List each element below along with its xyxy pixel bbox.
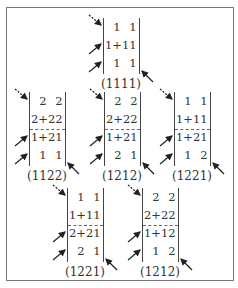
up-right-arrow-icon [15,154,27,164]
up-left-arrow-icon [142,71,153,82]
arrows-layer [0,0,238,288]
up-left-arrow-icon [68,163,79,174]
dashed-arrow-icon [89,15,101,25]
up-left-arrow-icon [213,163,224,174]
up-right-arrow-icon [15,136,27,146]
up-right-arrow-icon [53,250,65,260]
dashed-arrow-icon [53,185,65,195]
dashed-arrow-icon [160,89,172,99]
dashed-arrow-icon [90,89,102,99]
up-left-arrow-icon [106,259,117,270]
dashed-arrow-icon [15,89,27,99]
up-right-arrow-icon [128,250,140,260]
up-left-arrow-icon [181,259,192,270]
up-right-arrow-icon [90,154,102,164]
up-right-arrow-icon [160,136,172,146]
dashed-arrow-icon [128,185,140,195]
up-right-arrow-icon [53,232,65,242]
up-right-arrow-icon [128,232,140,242]
up-left-arrow-icon [143,163,154,174]
up-right-arrow-icon [89,62,101,72]
up-right-arrow-icon [89,44,101,54]
up-right-arrow-icon [160,154,172,164]
up-right-arrow-icon [90,136,102,146]
